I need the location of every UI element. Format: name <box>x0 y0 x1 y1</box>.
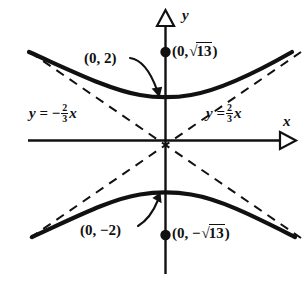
focus-upper-open: (0, <box>172 43 188 59</box>
focus-lower-point <box>160 230 170 240</box>
asymptote-negative-lhs: y <box>29 105 36 121</box>
asymptote-positive-fraction: 23 <box>226 103 233 124</box>
focus-upper-close: ) <box>212 43 217 59</box>
focus-upper-radical: √13 <box>188 44 212 59</box>
focus-upper-point <box>160 47 170 57</box>
focus-lower-label: (0, −√13) <box>172 226 230 241</box>
hyperbola-figure: y x (0,√13) (0, 2) y = −23x y =23x (0, −… <box>0 0 307 281</box>
asymptote-negative-label: y = −23x <box>29 103 77 124</box>
asymptote-positive-lhs: y <box>206 105 213 121</box>
y-axis-arrowhead <box>157 10 174 26</box>
focus-lower-radicand: 13 <box>209 224 225 241</box>
focus-lower-radical: √13 <box>201 226 225 241</box>
asymptote-negative-equals: = − <box>39 105 60 121</box>
asymptote-positive-denominator: 3 <box>226 113 233 124</box>
vertex-lower-arrow <box>138 200 158 226</box>
asymptote-negative-denominator: 3 <box>61 113 68 124</box>
focus-upper-label: (0,√13) <box>172 44 217 59</box>
vertex-upper-arrow <box>130 58 157 90</box>
x-axis-arrowhead <box>280 132 296 149</box>
asymptote-negative-variable: x <box>69 105 77 121</box>
focus-upper-radicand: 13 <box>196 42 212 59</box>
asymptote-positive-numerator: 2 <box>226 103 233 113</box>
vertex-lower-label: (0, −2) <box>80 223 121 238</box>
asymptote-positive-equals: = <box>216 105 225 121</box>
vertex-upper-label: (0, 2) <box>84 51 117 66</box>
asymptote-negative-numerator: 2 <box>61 103 68 113</box>
plot-canvas <box>0 0 307 281</box>
y-axis-label: y <box>182 8 189 23</box>
focus-lower-close: ) <box>225 225 230 241</box>
asymptote-negative-fraction: 23 <box>61 103 68 124</box>
asymptote-positive-variable: x <box>234 105 242 121</box>
asymptote-positive-label: y =23x <box>206 103 241 124</box>
x-axis-label: x <box>283 114 291 129</box>
focus-lower-open: (0, − <box>172 225 201 241</box>
